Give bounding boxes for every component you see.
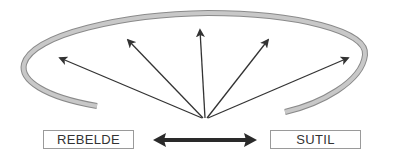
rebelde-label-box: REBELDE — [43, 130, 134, 149]
arrow-left — [128, 40, 203, 118]
arrow-far-right — [208, 58, 348, 118]
arrow-far-left — [60, 58, 202, 118]
rebelde-label: REBELDE — [57, 132, 120, 147]
double-headed-arrow — [153, 133, 257, 147]
arrow-right — [207, 40, 268, 118]
arrow-center — [200, 30, 205, 118]
band — [24, 13, 366, 112]
sutil-label-box: SUTIL — [270, 130, 361, 149]
sutil-label: SUTIL — [296, 132, 334, 147]
